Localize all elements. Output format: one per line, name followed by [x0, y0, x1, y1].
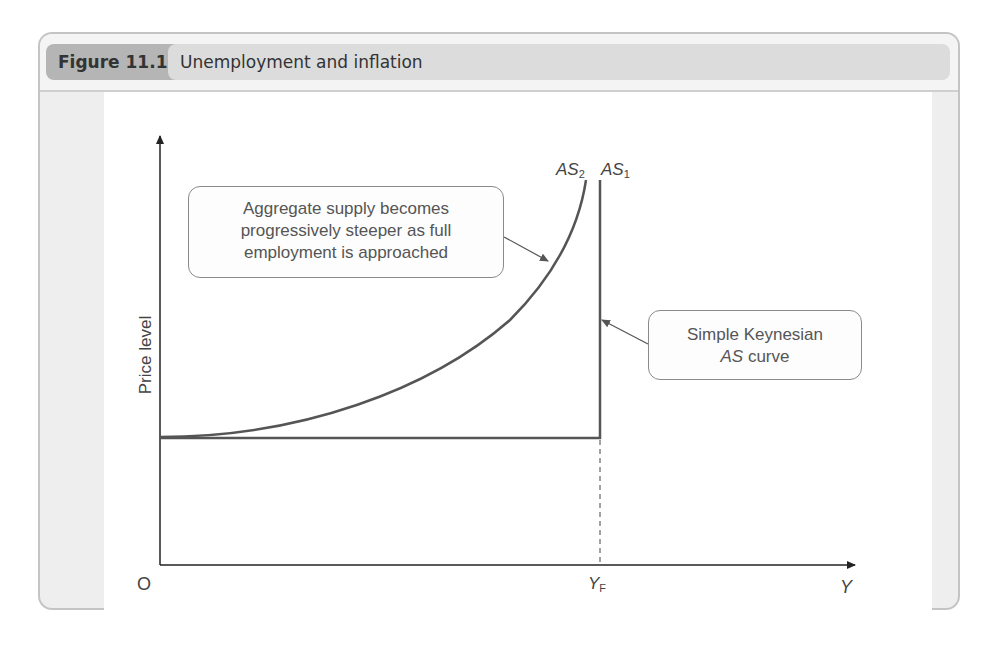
right-callout: Simple Keynesian AS curve	[648, 310, 862, 380]
as1-label-main: AS	[601, 160, 624, 179]
y-axis-label: Price level	[136, 305, 156, 405]
yf-label-main: Y	[588, 574, 599, 593]
left-callout-line2: progressively steeper as full	[189, 220, 503, 242]
yf-label: YF	[588, 574, 606, 594]
as2-label: AS2	[556, 160, 585, 180]
left-callout-line1: Aggregate supply becomes	[189, 198, 503, 220]
left-callout-line3: employment is approached	[189, 242, 503, 264]
right-callout-arrow	[602, 320, 648, 344]
as2-label-main: AS	[556, 160, 579, 179]
yf-label-sub: F	[599, 582, 606, 594]
x-axis-label: Y	[840, 577, 852, 598]
y-axis-label-text: Price level	[136, 316, 155, 394]
right-callout-line1: Simple Keynesian	[649, 324, 861, 346]
right-callout-as-italic: AS	[721, 347, 744, 366]
origin-label: O	[137, 574, 151, 595]
right-callout-line2: AS curve	[649, 346, 861, 368]
as1-label-sub: 1	[624, 168, 630, 180]
as1-label: AS1	[601, 160, 630, 180]
as2-label-sub: 2	[579, 168, 585, 180]
left-callout: Aggregate supply becomes progressively s…	[188, 186, 504, 278]
left-callout-arrow	[504, 237, 548, 261]
right-callout-curve-text: curve	[743, 347, 789, 366]
